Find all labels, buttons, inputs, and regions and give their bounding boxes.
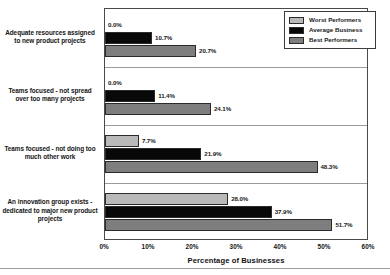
x-tick-label: 40% <box>274 243 287 250</box>
chart-legend: Worst Performers Average Business Best P… <box>284 11 376 49</box>
category-label: Teams focused - not doing too much other… <box>2 145 98 162</box>
x-tick-label: 60% <box>362 243 375 250</box>
bar-best <box>105 45 196 57</box>
bar-worst <box>105 193 228 205</box>
bar-value-label: 21.9% <box>204 151 221 157</box>
x-axis-title: Percentage of Businesses <box>104 256 368 265</box>
legend-label-average-business: Average Business <box>309 27 362 33</box>
x-tick-label: 30% <box>230 243 243 250</box>
x-tick-label: 50% <box>318 243 331 250</box>
category-label: Adequate resources assigned to new produ… <box>2 29 98 46</box>
bar-best <box>105 103 211 115</box>
legend-item-best-performers: Best Performers <box>289 35 372 45</box>
bar-average <box>105 90 155 102</box>
bar-value-label: 0.0% <box>108 80 122 86</box>
category-label: An innovation group exists - dedicated t… <box>2 198 98 224</box>
bar-best <box>105 219 332 231</box>
x-tick-label: 0% <box>99 243 108 250</box>
bar-value-label: 11.4% <box>158 93 175 99</box>
legend-label-worst-performers: Worst Performers <box>309 17 361 23</box>
x-tick-label: 20% <box>186 243 199 250</box>
chart-screenshot: Adequate resources assigned to new produ… <box>0 0 390 275</box>
bar-value-label: 37.9% <box>275 209 292 215</box>
bar-value-label: 10.7% <box>155 35 172 41</box>
x-tick-label: 10% <box>142 243 155 250</box>
bar-average <box>105 206 272 218</box>
bar-value-label: 20.7% <box>199 48 216 54</box>
category-label-column: Adequate resources assigned to new produ… <box>0 8 100 240</box>
bar-value-label: 24.1% <box>214 106 231 112</box>
bar-best <box>105 161 318 173</box>
legend-label-best-performers: Best Performers <box>309 37 357 43</box>
bar-average <box>105 32 152 44</box>
legend-item-average-business: Average Business <box>289 25 372 35</box>
legend-swatch-best-performers <box>289 37 304 44</box>
bar-value-label: 7.7% <box>142 138 156 144</box>
category-separator <box>105 125 367 126</box>
bar-value-label: 28.0% <box>231 196 248 202</box>
category-label: Teams focused - not spread over too many… <box>2 87 98 104</box>
bar-average <box>105 148 201 160</box>
bar-value-label: 48.3% <box>321 164 338 170</box>
page-divider <box>0 268 390 269</box>
legend-swatch-average-business <box>289 27 304 34</box>
bar-value-label: 0.0% <box>108 22 122 28</box>
legend-swatch-worst-performers <box>289 17 304 24</box>
bar-value-label: 51.7% <box>335 222 352 228</box>
category-separator <box>105 67 367 68</box>
bar-worst <box>105 135 139 147</box>
legend-item-worst-performers: Worst Performers <box>289 15 372 25</box>
category-separator <box>105 183 367 184</box>
x-axis-ticks: 0%10%20%30%40%50%60% <box>104 243 368 255</box>
